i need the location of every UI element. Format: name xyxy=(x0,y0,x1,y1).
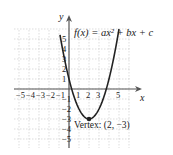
y-tick-label: −4 xyxy=(62,124,72,134)
y-tick-label: −2 xyxy=(62,104,71,114)
x-tick-label: −4 xyxy=(26,90,36,100)
y-tick-label: −5 xyxy=(62,134,71,144)
vertex-label: Vertex: (2, −3) xyxy=(74,120,130,131)
x-tick-label: −3 xyxy=(36,90,45,100)
graph-svg: x y f(x) = ax² + bx + c Vertex: (2, −3) … xyxy=(0,0,173,155)
x-tick-label: 5 xyxy=(116,90,120,100)
x-tick-label: 1 xyxy=(76,90,80,100)
y-tick-label: −3 xyxy=(62,114,71,124)
y-tick-label: 2 xyxy=(62,64,66,74)
y-tick-label: 5 xyxy=(62,34,66,44)
function-label: f(x) = ax² + bx + c xyxy=(74,27,154,39)
x-tick-label: 2 xyxy=(86,90,90,100)
y-tick-label: 1 xyxy=(62,74,66,84)
x-tick-label: −5 xyxy=(16,90,25,100)
parabola-figure: x y f(x) = ax² + bx + c Vertex: (2, −3) … xyxy=(0,0,173,155)
x-tick-label: −2 xyxy=(46,90,55,100)
y-axis-label: y xyxy=(58,11,64,22)
y-tick-label: 3 xyxy=(62,54,66,64)
x-axis-label: x xyxy=(139,92,145,103)
x-tick-label: 3 xyxy=(96,90,100,100)
y-tick-label: −1 xyxy=(62,94,71,104)
